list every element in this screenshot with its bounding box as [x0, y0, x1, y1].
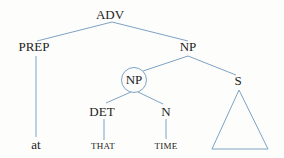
- edge-np-det: [106, 92, 131, 103]
- node-s: S: [234, 73, 241, 89]
- node-n: N: [161, 104, 170, 120]
- node-np-top: NP: [180, 39, 197, 55]
- leaf-at: at: [31, 137, 40, 153]
- leaf-that: THAT: [91, 141, 115, 151]
- edge-adv-np: [112, 22, 188, 41]
- node-adv: ADV: [96, 7, 124, 23]
- node-prep: PREP: [18, 39, 49, 55]
- node-np-circled: NP: [126, 72, 143, 88]
- edge-np-s: [188, 56, 236, 75]
- edge-np-n: [138, 92, 163, 104]
- leaf-time: TIME: [154, 141, 177, 151]
- node-det: DET: [89, 104, 114, 120]
- s-triangle: [212, 90, 268, 149]
- edge-np-np: [143, 56, 188, 71]
